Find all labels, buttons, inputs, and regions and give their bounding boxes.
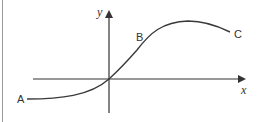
y-axis-label: y <box>97 6 102 18</box>
point-label-a: A <box>17 94 24 105</box>
x-axis-label: x <box>241 84 246 96</box>
point-label-b: B <box>136 32 143 43</box>
point-label-c: C <box>234 29 242 40</box>
graph-diagram <box>0 0 262 122</box>
curve <box>27 21 230 99</box>
